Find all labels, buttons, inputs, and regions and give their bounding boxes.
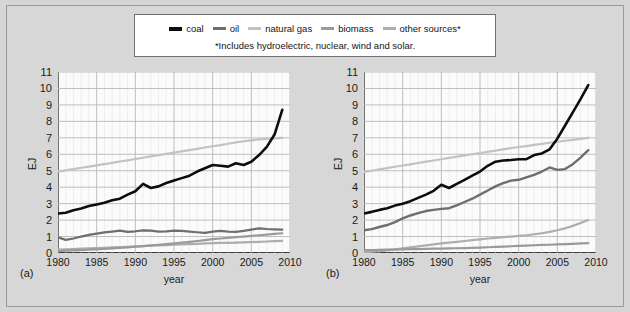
chart-legend: coal oil natural gas biomass other sourc… — [134, 14, 496, 57]
x-tick-label: 2000 — [507, 256, 530, 268]
chart-panel-a: 01234567891011 1980198519901995200020052… — [14, 62, 314, 312]
legend-item-oil: oil — [213, 23, 240, 34]
legend-entries: coal oil natural gas biomass other sourc… — [169, 21, 461, 37]
x-tick-label: 1985 — [85, 256, 108, 268]
y-axis-label-a: EJ — [26, 158, 38, 170]
x-tick-label: 1980 — [352, 256, 375, 268]
y-tick-label: 10 — [30, 83, 52, 94]
legend-label-natural-gas: natural gas — [265, 23, 312, 34]
y-tick-label: 1 — [30, 231, 52, 242]
x-tick-label: 2010 — [584, 256, 607, 268]
series-line-biomass — [364, 243, 588, 250]
x-tick-label: 1985 — [391, 256, 414, 268]
x-tick-label: 2005 — [240, 256, 263, 268]
plot-area-a — [58, 72, 290, 253]
legend-swatch-natural-gas — [248, 27, 261, 30]
x-tick-label: 1990 — [124, 256, 147, 268]
series-line-oil — [58, 228, 282, 240]
panel-tag-a: (a) — [20, 267, 33, 279]
y-tick-label: 11 — [30, 67, 52, 78]
charts-container: 01234567891011 1980198519901995200020052… — [0, 62, 630, 312]
y-tick-label: 9 — [30, 99, 52, 110]
y-tick-label: 4 — [30, 182, 52, 193]
legend-swatch-coal — [169, 27, 182, 31]
legend-item-natural-gas: natural gas — [248, 23, 312, 34]
panel-tag-b: (b) — [326, 267, 339, 279]
y-tick-label: 10 — [336, 83, 358, 94]
y-tick-label: 2 — [30, 215, 52, 226]
y-tick-label: 3 — [30, 198, 52, 209]
legend-label-oil: oil — [230, 23, 240, 34]
x-tick-label: 1990 — [430, 256, 453, 268]
y-tick-label: 9 — [336, 99, 358, 110]
legend-label-biomass: biomass — [338, 23, 373, 34]
x-tick-label: 1980 — [46, 256, 69, 268]
legend-swatch-biomass — [321, 27, 334, 30]
legend-item-biomass: biomass — [321, 23, 373, 34]
x-tick-label: 2005 — [546, 256, 569, 268]
x-axis-label-b: year — [470, 273, 490, 285]
legend-label-coal: coal — [186, 23, 203, 34]
legend-footnote: *Includes hydroelectric, nuclear, wind a… — [215, 40, 415, 51]
legend-swatch-other-sources — [383, 27, 396, 30]
legend-label-other-sources: other sources* — [400, 23, 461, 34]
chart-panel-b: 01234567891011 1980198519901995200020052… — [320, 62, 620, 312]
y-tick-label: 8 — [30, 116, 52, 127]
y-tick-label: 8 — [336, 116, 358, 127]
y-tick-label: 4 — [336, 182, 358, 193]
legend-swatch-oil — [213, 27, 226, 30]
y-axis-label-b: EJ — [332, 158, 344, 170]
series-line-other-sources — [58, 241, 282, 250]
x-tick-label: 2000 — [201, 256, 224, 268]
series-line-coal — [364, 85, 588, 213]
y-tick-label: 7 — [30, 132, 52, 143]
figure-root: coal oil natural gas biomass other sourc… — [0, 0, 630, 312]
plot-area-b — [364, 72, 596, 253]
x-tick-label: 2010 — [278, 256, 301, 268]
series-line-oil — [364, 150, 588, 230]
y-tick-label: 3 — [336, 198, 358, 209]
x-axis-label-a: year — [164, 273, 184, 285]
legend-item-other-sources: other sources* — [383, 23, 461, 34]
x-tick-label: 1995 — [162, 256, 185, 268]
y-tick-label: 2 — [336, 215, 358, 226]
series-line-coal — [58, 110, 282, 214]
plot-svg-a — [58, 72, 290, 253]
y-tick-label: 1 — [336, 231, 358, 242]
y-tick-label: 11 — [336, 67, 358, 78]
legend-item-coal: coal — [169, 23, 203, 34]
x-tick-label: 1995 — [468, 256, 491, 268]
plot-svg-b — [364, 72, 596, 253]
y-tick-label: 7 — [336, 132, 358, 143]
